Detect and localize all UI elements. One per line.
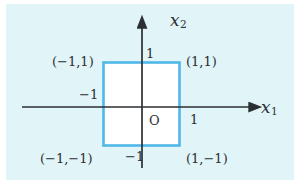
figure-root: x2 x1 1 −1 −1 1 O (−1,1) (1,1) (−1,−1) (… [0,0,304,186]
x-axis-label-base: x [261,97,271,117]
y-axis-label: x2 [170,12,187,30]
corner-label-top-left: (−1,1) [52,55,94,68]
origin-label: O [149,114,160,127]
x-tick-label-negative-one: −1 [79,88,98,101]
x-axis-label-subscript: 1 [271,105,278,117]
corner-label-bottom-right: (1,−1) [186,152,228,165]
y-tick-label-negative-one: −1 [125,150,144,163]
y-axis-label-subscript: 2 [180,18,187,30]
corner-label-top-right: (1,1) [186,55,217,68]
y-axis-label-base: x [170,10,180,30]
x-axis-label: x1 [261,99,278,117]
x-tick-label-positive-one: 1 [190,113,198,126]
corner-label-bottom-left: (−1,−1) [40,152,93,165]
y-tick-label-positive-one: 1 [146,47,154,60]
